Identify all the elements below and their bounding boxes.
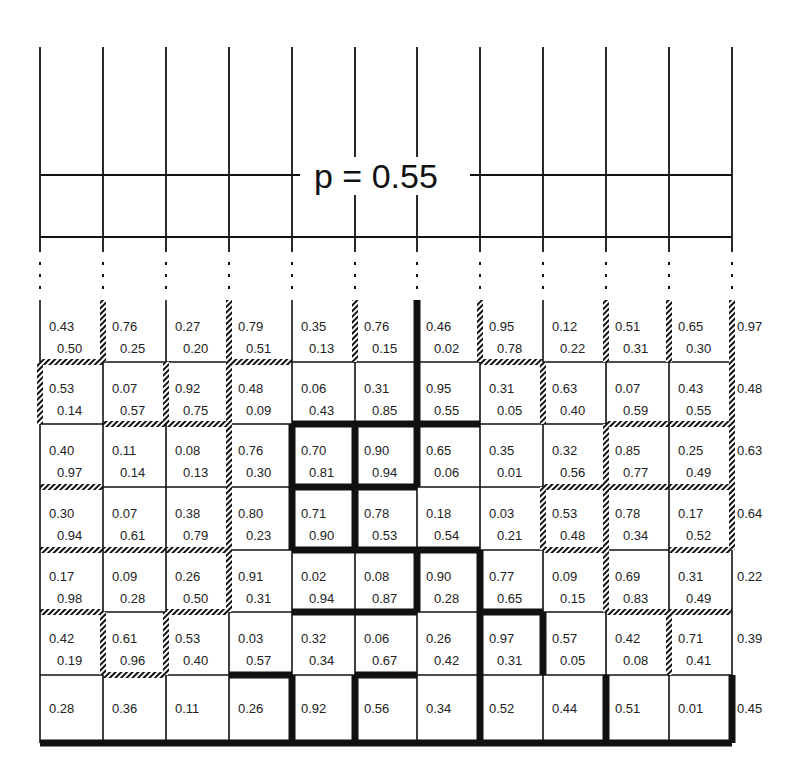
- right-edge-value: 0.45: [737, 701, 762, 716]
- cell-value-top: 0.91: [238, 569, 263, 584]
- cell-value-bottom: 0.15: [372, 341, 397, 356]
- cell-value-bottom: 0.28: [120, 591, 145, 606]
- cell-value: 0.56: [364, 701, 389, 716]
- cell-value-bottom: 0.22: [560, 341, 585, 356]
- cell-value-bottom: 0.50: [183, 591, 208, 606]
- cell-value-bottom: 0.85: [372, 403, 397, 418]
- cell-value-bottom: 0.51: [246, 341, 271, 356]
- cell-value-bottom: 0.53: [372, 528, 397, 543]
- cell-value-bottom: 0.52: [686, 528, 711, 543]
- cell-value-top: 0.97: [489, 631, 514, 646]
- cell-value: 0.26: [238, 701, 263, 716]
- cell-value-top: 0.03: [489, 506, 514, 521]
- right-edge-value: 0.63: [737, 443, 762, 458]
- cell-value-top: 0.51: [615, 319, 640, 334]
- upper-grid: [40, 47, 732, 252]
- cell-value-top: 0.48: [238, 381, 263, 396]
- cell-value-bottom: 0.49: [686, 591, 711, 606]
- cell-value-bottom: 0.31: [623, 341, 648, 356]
- cell-value-bottom: 0.49: [686, 465, 711, 480]
- cell-value: 0.11: [175, 701, 199, 716]
- cell-value-bottom: 0.87: [372, 591, 397, 606]
- cell-value-bottom: 0.55: [434, 403, 459, 418]
- cell-value-top: 0.90: [364, 443, 389, 458]
- cell-value-top: 0.27: [175, 319, 200, 334]
- cell-value-top: 0.42: [615, 631, 640, 646]
- cell-value-bottom: 0.25: [120, 341, 145, 356]
- cell-value-top: 0.31: [364, 381, 389, 396]
- cell-value-top: 0.17: [678, 506, 703, 521]
- cell-value-top: 0.53: [552, 506, 577, 521]
- cell-value-top: 0.53: [175, 631, 200, 646]
- cell-value-top: 0.08: [175, 443, 200, 458]
- cell-value-bottom: 0.09: [246, 403, 271, 418]
- cell-value-bottom: 0.30: [246, 465, 271, 480]
- cell-value-bottom: 0.08: [623, 653, 648, 668]
- cell-value-bottom: 0.94: [309, 591, 334, 606]
- cell-value-bottom: 0.54: [434, 528, 459, 543]
- cell-value-bottom: 0.01: [497, 465, 522, 480]
- cell-value-top: 0.38: [175, 506, 200, 521]
- cell-value-top: 0.61: [112, 631, 137, 646]
- probability-label: p = 0.55: [312, 157, 440, 195]
- cell-value-bottom: 0.61: [120, 528, 145, 543]
- cell-value-top: 0.43: [49, 319, 74, 334]
- cell-value: 0.92: [301, 701, 326, 716]
- cell-value-bottom: 0.02: [434, 341, 459, 356]
- cell-value-top: 0.32: [552, 443, 577, 458]
- cell-value-top: 0.43: [678, 381, 703, 396]
- cell-value-top: 0.06: [301, 381, 326, 396]
- cell-value-bottom: 0.67: [372, 653, 397, 668]
- cell-value: 0.36: [112, 701, 137, 716]
- cell-value-top: 0.07: [615, 381, 640, 396]
- cell-value-top: 0.76: [112, 319, 137, 334]
- cell-value-bottom: 0.57: [246, 653, 271, 668]
- cell-value-bottom: 0.43: [309, 403, 334, 418]
- cell-value-top: 0.95: [489, 319, 514, 334]
- cell-value-top: 0.65: [678, 319, 703, 334]
- cell-value-bottom: 0.19: [57, 653, 82, 668]
- cell-value-top: 0.18: [426, 506, 451, 521]
- cell-value-top: 0.35: [301, 319, 326, 334]
- cell-value-top: 0.07: [112, 506, 137, 521]
- cell-value-bottom: 0.28: [434, 591, 459, 606]
- cell-value-bottom: 0.57: [120, 403, 145, 418]
- cell-value-bottom: 0.96: [120, 653, 145, 668]
- cell-value-bottom: 0.65: [497, 591, 522, 606]
- cell-value-bottom: 0.94: [372, 465, 397, 480]
- cell-value-top: 0.95: [426, 381, 451, 396]
- cell-value-top: 0.90: [426, 569, 451, 584]
- cell-value-top: 0.07: [112, 381, 137, 396]
- cell-value-top: 0.63: [552, 381, 577, 396]
- cell-value-top: 0.31: [489, 381, 514, 396]
- cell-value-top: 0.76: [364, 319, 389, 334]
- cell-value-top: 0.42: [49, 631, 74, 646]
- cell-value-top: 0.40: [49, 443, 74, 458]
- cell-value-top: 0.53: [49, 381, 74, 396]
- cell-value-bottom: 0.75: [183, 403, 208, 418]
- cell-value: 0.51: [615, 701, 640, 716]
- cell-value-bottom: 0.31: [497, 653, 522, 668]
- right-edge-value: 0.97: [737, 319, 762, 334]
- cell-value-top: 0.46: [426, 319, 451, 334]
- cell-value-top: 0.26: [426, 631, 451, 646]
- cell-value-bottom: 0.05: [560, 653, 585, 668]
- cell-value: 0.44: [552, 701, 577, 716]
- cell-value-bottom: 0.55: [686, 403, 711, 418]
- cell-value-bottom: 0.05: [497, 403, 522, 418]
- cell-value-bottom: 0.31: [246, 591, 271, 606]
- cell-value-top: 0.25: [678, 443, 703, 458]
- cell-value-bottom: 0.40: [560, 403, 585, 418]
- cell-value-top: 0.85: [615, 443, 640, 458]
- cell-value-bottom: 0.97: [57, 465, 82, 480]
- cell-value-bottom: 0.77: [623, 465, 648, 480]
- cell-value-bottom: 0.34: [309, 653, 334, 668]
- cell-value-bottom: 0.50: [57, 341, 82, 356]
- cell-value-bottom: 0.41: [686, 653, 711, 668]
- cell-value-bottom: 0.15: [560, 591, 585, 606]
- cell-value-top: 0.31: [678, 569, 703, 584]
- cell-value-bottom: 0.13: [309, 341, 334, 356]
- cell-value-top: 0.78: [364, 506, 389, 521]
- cell-value-top: 0.71: [678, 631, 703, 646]
- continuation-dots: [39, 262, 733, 289]
